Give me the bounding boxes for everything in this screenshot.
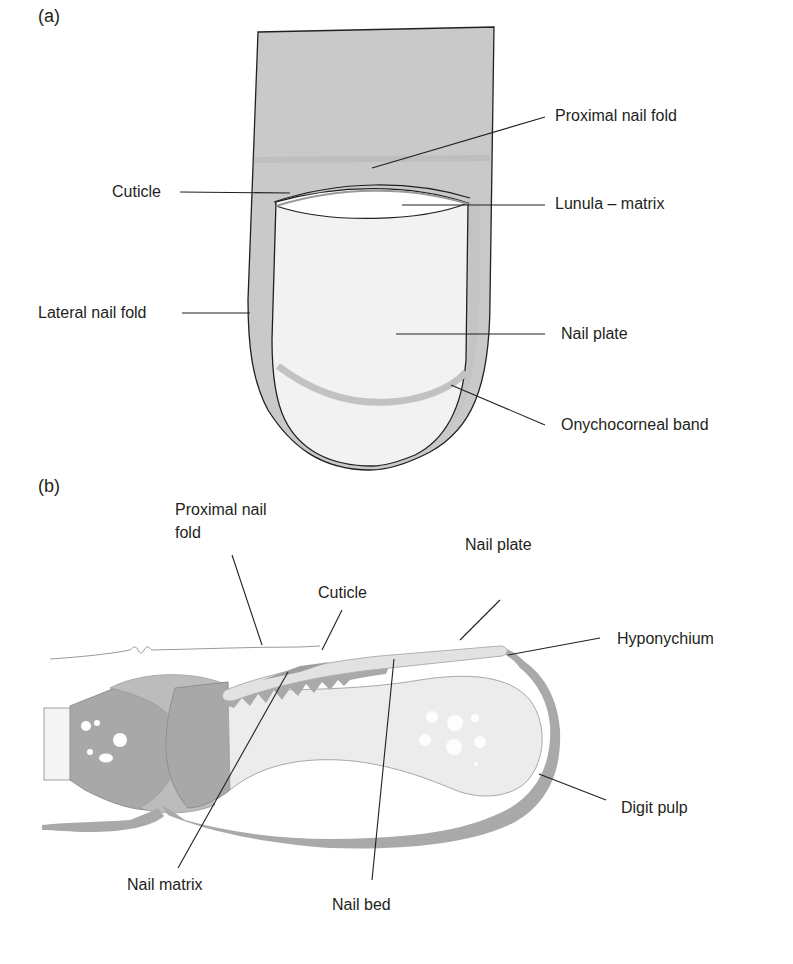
- label-lateral-nail-fold: Lateral nail fold: [38, 304, 147, 322]
- ventral-skin-left: [42, 808, 164, 832]
- label-nail-plate-b: Nail plate: [465, 536, 532, 554]
- label-proximal-nail-fold-b-line1: Proximal nail: [175, 501, 267, 519]
- label-digit-pulp: Digit pulp: [621, 799, 688, 817]
- panel-b-label: (b): [38, 476, 60, 496]
- label-proximal-nail-fold: Proximal nail fold: [555, 107, 677, 125]
- panel-a-label: (a): [38, 6, 60, 26]
- distal-phalanx-base: [166, 682, 230, 808]
- label-lunula-matrix: Lunula – matrix: [555, 195, 664, 213]
- label-cuticle-b: Cuticle: [318, 584, 367, 602]
- label-nail-matrix: Nail matrix: [127, 876, 203, 894]
- label-onychocorneal-band: Onychocorneal band: [561, 416, 709, 434]
- panel-b-drawing: [42, 555, 606, 880]
- label-cuticle-a: Cuticle: [112, 183, 161, 201]
- skin-crease: [254, 158, 490, 160]
- panel-a-drawing: [180, 27, 545, 470]
- nail-plate: [272, 192, 468, 466]
- figure-caption-cutoff: [38, 958, 758, 964]
- label-hyponychium: Hyponychium: [617, 630, 714, 648]
- label-proximal-nail-fold-b-line2: fold: [175, 524, 201, 542]
- nail-anatomy-figure: [0, 0, 793, 964]
- label-nail-bed: Nail bed: [332, 896, 391, 914]
- label-nail-plate-a: Nail plate: [561, 325, 628, 343]
- dorsal-skin-line: [50, 646, 320, 659]
